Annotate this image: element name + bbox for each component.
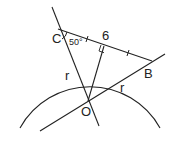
circle-chord-diagram: C B O 50° 6 r r — [0, 0, 174, 141]
line-CO — [52, 7, 99, 126]
diagram-canvas: C B O 50° 6 r r — [0, 0, 174, 141]
point-label-B: B — [144, 66, 153, 81]
point-label-C: C — [52, 31, 61, 46]
point-label-O: O — [81, 104, 91, 119]
radius-label-OB: r — [120, 80, 125, 95]
radius-label-CO: r — [65, 68, 70, 83]
chord-length-label: 6 — [102, 28, 109, 43]
angle-label: 50° — [69, 37, 83, 47]
